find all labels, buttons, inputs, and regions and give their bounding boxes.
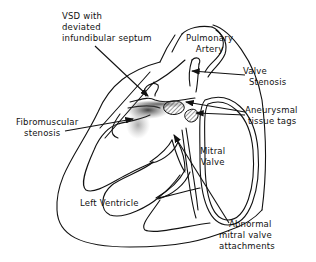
abnormal-label-line: attachments (219, 241, 275, 252)
left-ventricle-label: Left Ventricle (80, 198, 139, 209)
abnormal-label-line: Abnormal (219, 219, 275, 230)
aneurysmal-label-line: tissue tags (245, 116, 298, 127)
aneurysmal-tissue-tags-label: Aneurysmal tissue tags (245, 105, 298, 127)
vsd-label-line: infundibular septum (62, 33, 152, 44)
valve-stenosis-label-line: Valve (243, 66, 286, 77)
pulmonary-artery-label-line: Pulmonary (186, 33, 233, 44)
valve-stenosis-label: Valve Stenosis (243, 66, 286, 88)
pulmonary-artery-wall-left2 (160, 35, 175, 62)
fibromuscular-label-line: stenosis (16, 128, 78, 139)
vsd-label-line: deviated (62, 22, 152, 33)
abnormal-label-line: mitral valve (219, 230, 275, 241)
aneurysmal-tag-1 (164, 101, 185, 115)
aneurysmal-tag-2 (185, 109, 198, 122)
heart-diagram: VSD with deviated infundibular septum Pu… (0, 0, 316, 262)
vsd-label-line: VSD with (62, 11, 152, 22)
aneurysmal-label-line: Aneurysmal (245, 105, 298, 116)
vsd-label: VSD with deviated infundibular septum (62, 11, 152, 44)
pulmonary-artery-label: Pulmonary Artery (186, 33, 233, 55)
vsd-pointer-arrow (95, 46, 148, 96)
fibromuscular-label-line: Fibromuscular (16, 117, 78, 128)
mitral-valve-label: Mitral Valve (200, 146, 225, 168)
valve-stenosis-label-line: Stenosis (243, 77, 286, 88)
abnormal-mitral-attachments-label: Abnormal mitral valve attachments (219, 219, 275, 252)
mitral-valve-label-line: Mitral (200, 146, 225, 157)
fibromuscular-stenosis-label: Fibromuscular stenosis (16, 117, 78, 139)
pulmonary-artery-label-line: Artery (186, 44, 233, 55)
left-ventricle-label-line: Left Ventricle (80, 198, 139, 209)
valve-stenosis-pointer-arrow (192, 71, 245, 75)
mitral-valve-label-line: Valve (200, 157, 225, 168)
aneurysmal-pointer-arrow-2 (196, 113, 245, 115)
